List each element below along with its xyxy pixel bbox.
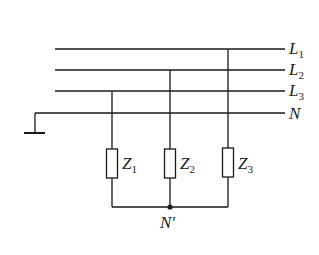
label-z3: Z3 (238, 155, 253, 175)
label-n: N (289, 105, 300, 122)
label-l1: L1 (289, 40, 304, 60)
label-z2: Z2 (180, 155, 195, 175)
label-neutral-point: N′ (160, 214, 175, 231)
impedance-z1 (107, 149, 118, 178)
label-l3: L3 (289, 82, 304, 102)
circuit-diagram: L1 L2 L3 N Z1 Z2 Z3 N′ (0, 0, 319, 255)
impedance-z3 (223, 148, 234, 177)
label-l2: L2 (289, 61, 304, 81)
impedance-z2 (165, 149, 176, 178)
label-z1: Z1 (122, 155, 137, 175)
neutral-point-dot (167, 204, 172, 209)
